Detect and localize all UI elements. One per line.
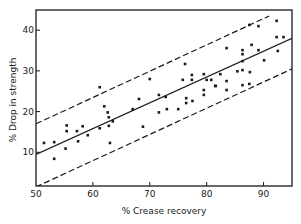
data-point xyxy=(275,36,278,39)
y-tick-label: 30 xyxy=(23,66,35,76)
data-point xyxy=(249,71,252,74)
data-point xyxy=(184,63,187,66)
x-tick-label: 70 xyxy=(144,189,156,199)
x-tick-label: 50 xyxy=(30,189,42,199)
y-tick-label: 40 xyxy=(23,25,35,35)
x-axis-label: % Crease recovery xyxy=(122,206,207,216)
data-point xyxy=(257,25,260,28)
data-point xyxy=(236,70,239,73)
data-point xyxy=(164,96,167,99)
data-point xyxy=(81,125,84,128)
data-point xyxy=(241,49,244,52)
data-point xyxy=(225,80,228,83)
data-point xyxy=(185,102,188,105)
data-points xyxy=(43,20,285,161)
data-point xyxy=(86,134,89,137)
x-tick-label: 90 xyxy=(258,189,270,199)
data-point xyxy=(177,108,180,111)
data-point xyxy=(203,73,206,76)
data-point xyxy=(108,116,111,119)
data-point xyxy=(142,125,145,128)
data-point xyxy=(248,24,251,27)
plot-frame xyxy=(36,10,292,186)
fit-lines xyxy=(36,16,292,187)
data-point xyxy=(158,94,161,97)
data-point xyxy=(109,142,112,145)
data-point xyxy=(98,86,101,89)
data-point xyxy=(53,141,56,144)
data-point xyxy=(65,124,68,127)
data-point xyxy=(219,73,222,76)
data-point xyxy=(65,130,68,133)
data-point xyxy=(76,130,79,133)
data-point xyxy=(191,79,194,82)
confidence-limit-line xyxy=(36,16,269,124)
data-point xyxy=(203,89,206,92)
data-point xyxy=(148,78,151,81)
data-point xyxy=(205,79,208,82)
x-tick-label: 80 xyxy=(201,189,213,199)
data-point xyxy=(257,49,260,52)
data-point xyxy=(185,97,188,100)
x-tick-label: 60 xyxy=(87,189,99,199)
data-point xyxy=(53,158,56,161)
data-point xyxy=(241,53,244,56)
data-point xyxy=(241,84,244,87)
data-point xyxy=(158,111,161,114)
scatter-plot: 5060708090 10203040 % Crease recovery % … xyxy=(0,0,301,224)
data-point xyxy=(77,140,80,143)
data-point xyxy=(138,98,141,101)
data-point xyxy=(225,47,228,50)
data-point xyxy=(250,44,253,47)
data-point xyxy=(108,125,111,128)
data-point xyxy=(248,83,251,86)
data-point xyxy=(166,108,169,111)
y-axis-ticks: 10203040 xyxy=(23,25,40,157)
data-point xyxy=(241,69,244,72)
data-point xyxy=(43,142,46,145)
data-point xyxy=(181,79,184,82)
data-point xyxy=(282,36,285,39)
data-point xyxy=(131,108,134,111)
x-axis-ticks: 5060708090 xyxy=(30,182,269,199)
y-tick-label: 20 xyxy=(23,107,35,117)
data-point xyxy=(64,147,67,150)
regression-line xyxy=(36,38,292,154)
data-point xyxy=(103,105,106,108)
data-point xyxy=(210,79,213,82)
data-point xyxy=(275,20,278,23)
data-point xyxy=(106,111,109,114)
data-point xyxy=(98,127,101,130)
confidence-limit-line xyxy=(36,69,292,187)
data-point xyxy=(203,94,206,97)
data-point xyxy=(241,60,244,63)
y-axis-label: % Drop in strength xyxy=(8,58,18,143)
data-point xyxy=(263,59,266,62)
data-point xyxy=(191,100,194,103)
data-point xyxy=(276,50,279,53)
data-point xyxy=(225,89,228,92)
plot-border xyxy=(36,10,292,186)
y-tick-label: 10 xyxy=(23,147,35,157)
data-point xyxy=(191,74,194,77)
data-point xyxy=(112,120,115,123)
data-point xyxy=(214,85,217,88)
